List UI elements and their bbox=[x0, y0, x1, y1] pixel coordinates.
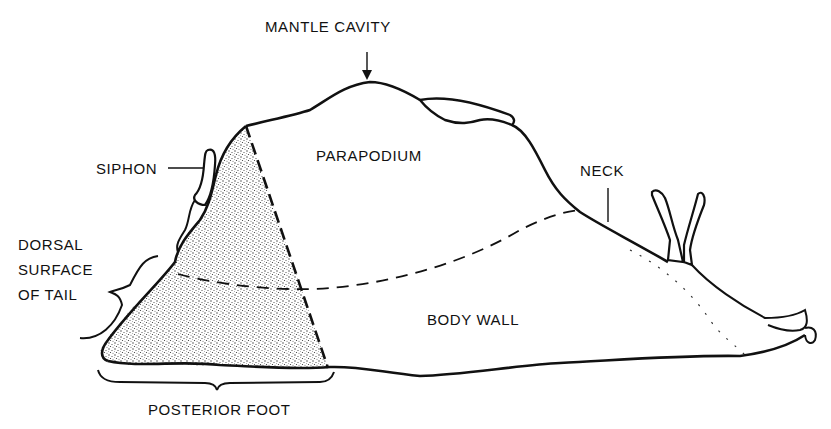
label-dorsal-surface-of-tail: DORSAL SURFACE OF TAIL bbox=[18, 232, 93, 307]
label-parapodium: PARAPODIUM bbox=[316, 143, 422, 168]
parapodium-flap bbox=[420, 99, 514, 125]
head-slope bbox=[692, 265, 807, 331]
rhinophore-left bbox=[652, 190, 683, 262]
mantle-cavity-arrowhead bbox=[362, 70, 372, 80]
aplysia-diagram bbox=[0, 0, 831, 429]
label-dorsal-line-3: OF TAIL bbox=[18, 282, 93, 307]
label-dorsal-line-1: DORSAL bbox=[18, 232, 93, 257]
rhinophore-right bbox=[684, 193, 705, 265]
label-neck: NECK bbox=[580, 158, 624, 183]
label-dorsal-line-2: SURFACE bbox=[18, 257, 93, 282]
body-dotted-line bbox=[630, 250, 745, 355]
label-mantle-cavity: MANTLE CAVITY bbox=[265, 14, 391, 39]
posterior-foot-brace bbox=[98, 370, 334, 390]
oral-tentacle bbox=[805, 328, 816, 343]
label-siphon: SIPHON bbox=[96, 156, 157, 181]
label-body-wall: BODY WALL bbox=[427, 307, 519, 332]
back-slope bbox=[512, 125, 668, 262]
body-outline-top bbox=[246, 82, 420, 126]
label-posterior-foot: POSTERIOR FOOT bbox=[148, 397, 291, 422]
